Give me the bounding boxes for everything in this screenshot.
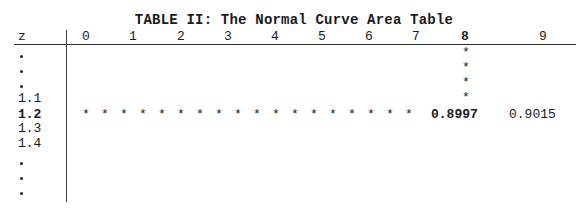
header-rule [14,44,576,45]
row-marker-star: * [158,108,166,122]
row-marker-star: * [405,108,413,122]
row-marker-star: * [329,108,337,122]
column-header-9: 9 [539,30,547,44]
row-marker-star: * [177,108,185,122]
column-marker-star: * [462,91,470,105]
z-row-1-2: 1.2 [18,108,41,122]
z-column-divider [66,30,67,202]
column-marker-star: * [462,61,470,75]
column-header-8: 8 [461,30,469,44]
row-marker-star: * [310,108,318,122]
ellipsis-dot [20,55,23,58]
z-row-1-4: 1.4 [18,137,41,151]
column-header-3: 3 [224,30,232,44]
table-title: TABLE II: The Normal Curve Area Table [0,12,588,28]
column-header-7: 7 [412,30,420,44]
z-column-header: z [18,30,26,44]
z-row-1-1: 1.1 [18,92,41,106]
row-marker-star: * [234,108,242,122]
ellipsis-dot [20,177,23,180]
row-marker-star: * [348,108,356,122]
row-marker-star: * [272,108,280,122]
row-marker-star: * [101,108,109,122]
cell-value: 0.9015 [509,108,556,122]
row-marker-star: * [139,108,147,122]
row-marker-star: * [82,108,90,122]
column-marker-star: * [462,46,470,60]
ellipsis-dot [20,162,23,165]
column-header-0: 0 [82,30,90,44]
ellipsis-dot [20,85,23,88]
row-marker-star: * [291,108,299,122]
column-header-5: 5 [318,30,326,44]
row-marker-star: * [253,108,261,122]
column-header-6: 6 [365,30,373,44]
row-marker-star: * [367,108,375,122]
column-header-1: 1 [129,30,137,44]
column-marker-star: * [462,76,470,90]
z-row-1-3: 1.3 [18,122,41,136]
cell-value-highlighted: 0.8997 [431,108,478,122]
row-marker-star: * [120,108,128,122]
row-marker-star: * [215,108,223,122]
column-header-2: 2 [177,30,185,44]
column-header-4: 4 [271,30,279,44]
ellipsis-dot [20,192,23,195]
row-marker-star: * [386,108,394,122]
ellipsis-dot [20,70,23,73]
row-marker-star: * [196,108,204,122]
